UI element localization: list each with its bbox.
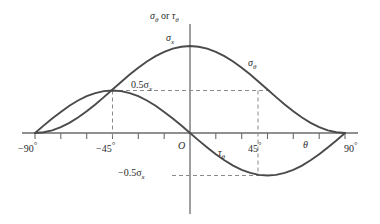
x-tick-label-minus-45: −45° (96, 141, 115, 154)
half-sigma-x-value: 0.5σ (131, 79, 149, 90)
x-tick-label-origin: O (178, 141, 185, 151)
y-axis-title-tau-sub: θ (175, 16, 178, 24)
neg-half-sigma-x-value: −0.5σ (118, 167, 142, 178)
y-axis-title-or: or (158, 10, 171, 21)
x-tick-minus-45-value: −45 (96, 143, 112, 154)
x-tick-minus-90-value: −90 (18, 143, 34, 154)
theta-axis-label: θ (303, 140, 308, 150)
sigma-theta-curve-subscript: θ (253, 63, 256, 71)
half-sigma-x-subscript: x (149, 85, 152, 93)
x-tick-minus-45-degree: ° (112, 140, 116, 150)
x-tick-plus-45-value: 45 (248, 143, 258, 154)
x-tick-label-plus-45: 45° (248, 141, 262, 154)
tau-theta-curve-subscript: θ (222, 153, 225, 161)
x-tick-plus-90-degree: ° (354, 140, 358, 150)
x-tick-label-plus-90: 90° (344, 141, 358, 154)
half-sigma-x-label: 0.5σx (131, 80, 152, 93)
neg-half-sigma-x-label: −0.5σx (118, 168, 145, 181)
x-tick-plus-90-value: 90 (344, 143, 354, 154)
plot-canvas (0, 0, 380, 224)
x-tick-label-minus-90: −90° (18, 141, 37, 154)
x-tick-plus-45-degree: ° (258, 140, 262, 150)
sigma-theta-curve-label: σθ (248, 58, 256, 71)
y-axis-title: σθ or τθ (150, 11, 179, 24)
sigma-x-peak-subscript: x (171, 38, 174, 46)
x-tick-minus-90-degree: ° (34, 140, 38, 150)
stress-transformation-figure: σθ or τθ σx 0.5σx −0.5σx −90° −45° O 45°… (0, 0, 380, 224)
tau-theta-curve-label: τθ (218, 148, 225, 161)
neg-half-sigma-x-subscript: x (142, 173, 145, 181)
sigma-x-peak-label: σx (166, 33, 174, 46)
